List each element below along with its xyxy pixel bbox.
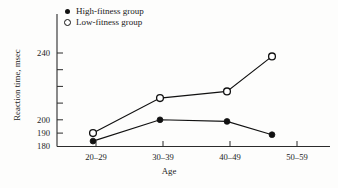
series-line-high-fitness xyxy=(93,120,272,141)
data-point-low-fitness-30-39 xyxy=(157,95,164,102)
x-tick-label-50-59: 50–59 xyxy=(277,152,317,162)
filled-circle-icon xyxy=(62,9,73,14)
data-point-low-fitness-50-59 xyxy=(269,53,276,60)
y-axis-title: Reaction time, msec xyxy=(12,25,22,145)
legend-label-low-fitness: Low-fitness group xyxy=(76,17,142,28)
data-point-low-fitness-20-29 xyxy=(90,130,97,137)
x-tick-label-20-29: 20–29 xyxy=(76,152,116,162)
x-tick-label-30-39: 30–39 xyxy=(143,152,183,162)
chart-legend: High-fitness group Low-fitness group xyxy=(62,6,144,28)
data-point-high-fitness-40-49 xyxy=(224,119,230,125)
legend-label-high-fitness: High-fitness group xyxy=(76,6,144,17)
data-point-low-fitness-40-49 xyxy=(224,88,231,95)
open-circle-icon xyxy=(62,19,73,26)
data-point-high-fitness-50-59 xyxy=(269,132,275,138)
data-point-high-fitness-20-29 xyxy=(90,138,96,144)
x-axis-title: Age xyxy=(0,166,338,176)
series-line-low-fitness xyxy=(93,56,272,133)
chart-figure: 240 200 190 180 20–29 30–39 40–49 50–59 … xyxy=(0,0,338,188)
y-tick-label-190: 190 xyxy=(24,128,50,138)
y-tick-label-200: 200 xyxy=(24,115,50,125)
x-tick-label-40-49: 40–49 xyxy=(210,152,250,162)
legend-item-high-fitness: High-fitness group xyxy=(62,6,144,17)
y-tick-label-180: 180 xyxy=(24,141,50,151)
y-tick-label-240: 240 xyxy=(24,48,50,58)
data-point-high-fitness-30-39 xyxy=(157,117,163,123)
legend-item-low-fitness: Low-fitness group xyxy=(62,17,144,28)
